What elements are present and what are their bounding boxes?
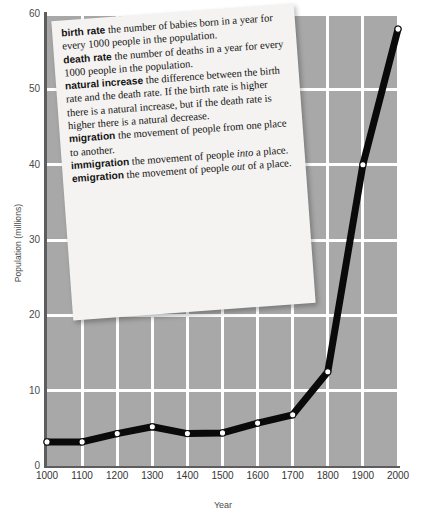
x-tick-label-2000: 2000 [378, 470, 418, 481]
definitions-overlay-card: birth rate the number of babies born in … [51, 4, 315, 321]
data-point-1200 [114, 431, 120, 437]
definition-term: death rate [63, 51, 112, 66]
definition-term: birth rate [61, 24, 106, 38]
x-tick-label-1600: 1600 [238, 470, 278, 481]
definition-term: emigration [72, 170, 125, 185]
x-tick-label-1700: 1700 [273, 470, 313, 481]
y-tick-label-10: 10 [12, 385, 40, 396]
y-tick-label-20: 20 [12, 309, 40, 320]
data-point-1500 [219, 430, 225, 436]
x-tick-label-1500: 1500 [203, 470, 243, 481]
x-tick-label-1900: 1900 [343, 470, 383, 481]
y-tick-label-40: 40 [12, 159, 40, 170]
data-point-1000 [44, 439, 50, 445]
x-tick-label-1000: 1000 [27, 470, 67, 481]
data-point-1700 [290, 412, 296, 418]
data-point-1300 [149, 424, 155, 430]
data-point-1900 [360, 162, 366, 168]
definitions-text: birth rate the number of babies born in … [61, 10, 297, 186]
data-point-1800 [325, 369, 331, 375]
x-tick-label-1400: 1400 [167, 470, 207, 481]
x-axis-title: Year [47, 500, 399, 510]
definition-term: migration [69, 130, 116, 144]
y-tick-label-30: 30 [12, 234, 40, 245]
x-tick-label-1100: 1100 [62, 470, 102, 481]
population-line-chart-figure: Population (millions) 0102030405060 1000… [0, 0, 425, 523]
data-point-2000 [395, 26, 401, 32]
x-tick-label-1300: 1300 [132, 470, 172, 481]
data-point-1600 [255, 420, 261, 426]
y-tick-label-50: 50 [12, 83, 40, 94]
data-point-1400 [184, 431, 190, 437]
x-tick-label-1200: 1200 [97, 470, 137, 481]
definition-emphasis: into [236, 147, 253, 159]
x-tick-label-1800: 1800 [308, 470, 348, 481]
data-point-1100 [79, 439, 85, 445]
definition-emphasis: out [231, 161, 245, 173]
y-tick-label-60: 60 [12, 8, 40, 19]
